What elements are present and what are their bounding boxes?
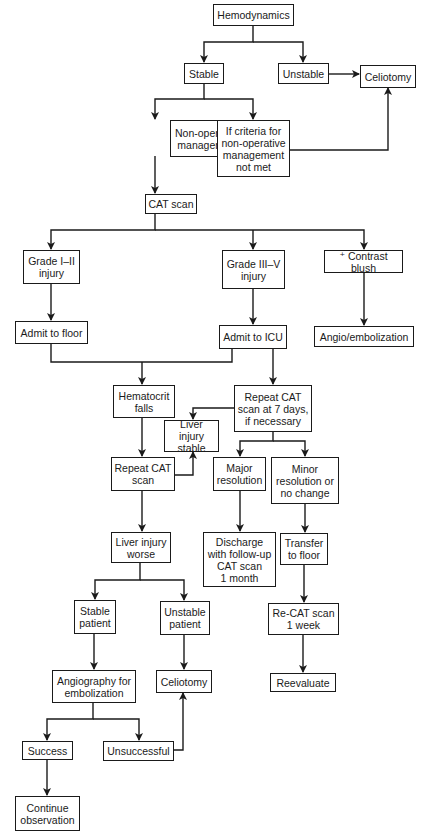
edge-repeat-stable — [174, 452, 193, 475]
node-success: Success — [22, 741, 73, 760]
node-contrast-blush: ⁺ Contrast blush — [324, 250, 403, 273]
node-hematocrit-falls: Hematocrit falls — [113, 385, 175, 418]
node-repeat-cat-scan: Repeat CAT scan — [111, 457, 175, 491]
edge-repeat7-major — [240, 431, 273, 456]
node-reevaluate: Reevaluate — [270, 673, 336, 692]
node-grade-3-5: Grade III–V injury — [222, 250, 285, 289]
node-admit-icu: Admit to ICU — [219, 325, 287, 349]
node-stable-patient: Stable patient — [74, 600, 116, 634]
node-unstable-patient: Unstable patient — [160, 601, 210, 635]
node-stable: Stable — [184, 63, 224, 84]
node-celiotomy-bottom: Celiotomy — [156, 670, 212, 693]
edge-angio-success — [47, 702, 93, 740]
edge-angio-unsuccessful — [93, 719, 139, 740]
node-angio-embolization: Angio/embolization — [314, 326, 414, 347]
node-admit-floor: Admit to floor — [15, 321, 88, 344]
edge-hemo-unstable — [253, 42, 303, 62]
node-hemodynamics: Hemodynamics — [213, 4, 294, 26]
edge-stable-nonop — [155, 83, 204, 119]
edge-worse-unstable — [140, 580, 184, 600]
node-repeat-cat-7-days: Repeat CAT scan at 7 days, if necessary — [234, 385, 312, 432]
node-transfer-floor: Transfer to floor — [280, 533, 328, 565]
node-unsuccessful: Unsuccessful — [103, 741, 174, 761]
edge-stable-criteria — [204, 99, 253, 119]
node-unstable: Unstable — [278, 63, 329, 84]
edge-floor-hematocrit — [51, 343, 232, 362]
node-minor-resolution: Minor resolution or no change — [271, 457, 339, 504]
edge-worse-stable — [95, 562, 140, 599]
edge-cat-grade12 — [51, 213, 155, 249]
node-angiography-embolization: Angiography for embolization — [52, 670, 136, 703]
node-recat-1-week: Re-CAT scan 1 week — [268, 603, 339, 635]
flowchart-canvas: Hemodynamics Stable Unstable Celiotomy N… — [0, 0, 424, 838]
node-cat-scan: CAT scan — [145, 194, 197, 214]
edge-cat-grade35 — [155, 230, 364, 249]
node-celiotomy-top: Celiotomy — [360, 65, 416, 88]
node-liver-injury-stable: Liver injury stable — [164, 420, 219, 452]
node-liver-injury-worse: Liver injury worse — [111, 532, 171, 563]
node-continue-observation: Continue observation — [15, 796, 80, 831]
node-grade-1-2: Grade I–II injury — [23, 250, 80, 284]
edge-unsuccessful-celiotomy — [173, 693, 183, 750]
node-criteria-not-met: If criteria for non-operative management… — [217, 120, 290, 177]
edge-criteria-celiotomy — [289, 88, 388, 150]
node-discharge: Discharge with follow-up CAT scan 1 mont… — [203, 532, 276, 587]
edge-repeat7-minor — [273, 441, 305, 456]
node-major-resolution: Major resolution — [213, 457, 266, 491]
edge-hemo-split — [204, 25, 253, 62]
